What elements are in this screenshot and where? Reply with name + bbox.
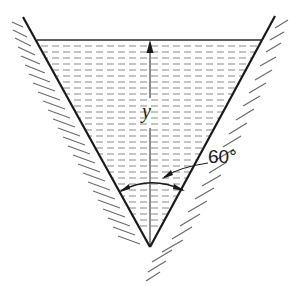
angle-label: 60° (208, 146, 237, 168)
v-channel-diagram (0, 0, 297, 286)
arc-arrowhead-left-icon (119, 184, 130, 192)
left-wall-hatch (12, 22, 140, 244)
depth-label: y (142, 100, 151, 123)
